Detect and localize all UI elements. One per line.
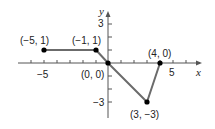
- y-axis-label: y: [98, 5, 104, 17]
- x-axis-label: x: [195, 66, 201, 78]
- point-label-neg5-1: (−5, 1): [20, 35, 49, 46]
- point-neg1-1: [93, 47, 98, 52]
- y-axis-arrow-icon: [106, 11, 111, 17]
- x-tick-label-neg5: −5: [37, 69, 49, 80]
- point-neg5-1: [41, 47, 46, 52]
- y-tick-label-neg3: −3: [93, 97, 105, 108]
- point-label-4-0: (4, 0): [148, 48, 171, 59]
- point-3-neg3: [144, 99, 149, 104]
- y-tick-label-3: 3: [98, 18, 104, 29]
- point-label-0-0: (0, 0): [81, 69, 104, 80]
- point-label-neg1-1: (−1, 1): [72, 35, 101, 46]
- x-axis-arrow-icon: [196, 61, 202, 66]
- point-label-3-neg3: (3, −3): [130, 109, 159, 120]
- point-4-0: [157, 60, 162, 65]
- x-tick-label-5: 5: [169, 67, 175, 78]
- graph: y x −5 5 3 −3 (−5, 1) (−1, 1) (0, 0) (3,…: [0, 0, 215, 129]
- point-0-0: [105, 60, 110, 65]
